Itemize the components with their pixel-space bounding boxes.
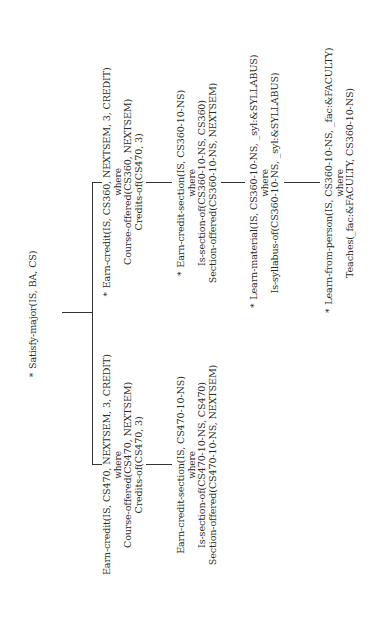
root-stem-connector [62, 312, 92, 313]
right-level2-connector [221, 182, 245, 183]
right-level1-connector [146, 182, 172, 183]
bullet-marker: * [28, 373, 39, 377]
bullet-marker: * [176, 272, 187, 276]
node-head: Earn-credit-section(IS, CS360-10-NS) [175, 90, 186, 268]
rotated-tree-diagram: *Satisfy-major(IS, BA, CS) Earn-credit(I… [0, 0, 389, 627]
node-head: Earn-credit(IS, CS470, NEXTSEM, 3, CREDI… [102, 355, 113, 575]
left-earn-credit-section-node: Earn-credit-section(IS, CS470-10-NS) whe… [176, 355, 218, 575]
bullet-marker: * [102, 292, 113, 296]
condition: Is-syllabus-of(CS360-10-NS, _syl:&SYLLAB… [270, 58, 281, 308]
condition: Credits-of(CS470, 3) [134, 67, 145, 297]
left-level1-connector [146, 464, 172, 465]
root-node: *Satisfy-major(IS, BA, CS) [28, 234, 39, 394]
bullet-marker: * [324, 309, 335, 313]
root-label: Satisfy-major(IS, BA, CS) [27, 251, 38, 369]
right-learn-from-person-node: *Learn-from-person(IS, CS360-10-NS, _fac… [324, 53, 356, 313]
condition: Credits-of(CS470, 3) [134, 355, 145, 575]
node-head: Learn-material(IS, CS360-10-NS, _syl:&SY… [248, 55, 259, 300]
condition: Section-offered(CS360-10-NS, NEXTSEM) [208, 73, 219, 293]
right-level3-connector [284, 182, 320, 183]
right-earn-credit-section-node: *Earn-credit-section(IS, CS360-10-NS) wh… [176, 73, 218, 293]
node-head: Earn-credit(IS, CS360, NEXTSEM, 3, CREDI… [101, 67, 112, 288]
right-earn-credit-node: *Earn-credit(IS, CS360, NEXTSEM, 3, CRED… [102, 67, 144, 297]
node-head: Learn-from-person(IS, CS360-10-NS, _fac:… [323, 48, 334, 305]
condition: Section-offered(CS470-10-NS, NEXTSEM) [208, 355, 219, 575]
left-earn-credit-node: Earn-credit(IS, CS470, NEXTSEM, 3, CREDI… [102, 355, 144, 575]
bullet-marker: * [249, 304, 260, 308]
condition: Teaches(_fac:&FACULTY, CS360-10-NS) [345, 53, 356, 313]
node-head: Earn-credit-section(IS, CS470-10-NS) [176, 355, 187, 575]
branch-bar-connector [92, 182, 93, 465]
right-learn-material-node: *Learn-material(IS, CS360-10-NS, _syl:&S… [249, 58, 281, 308]
